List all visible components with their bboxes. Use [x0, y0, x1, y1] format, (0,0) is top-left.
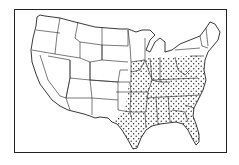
stippled-region	[112, 55, 206, 149]
us-map	[0, 0, 239, 165]
